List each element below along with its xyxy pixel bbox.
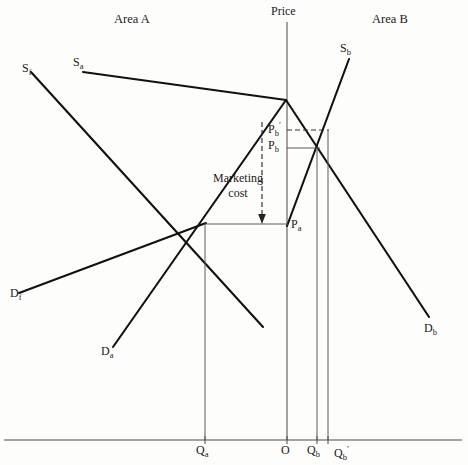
- supply-b-label-sub: b: [347, 47, 351, 57]
- demand-b-label-base: D: [424, 321, 433, 335]
- supply-a-curve: [83, 72, 286, 100]
- area-b-header: Area B: [372, 12, 408, 26]
- diagram-canvas: Area A Area B Price Sf Sa Sb Df Da Db Pb…: [0, 0, 468, 465]
- demand-b-label-sub: b: [433, 327, 437, 337]
- demand-farm-label: Df: [10, 287, 22, 303]
- price-axis-label: Price: [271, 5, 296, 19]
- supply-a-label-base: S: [73, 55, 80, 69]
- q-a-base: Q: [196, 443, 205, 457]
- price-a-label: Pa: [291, 218, 301, 234]
- demand-a-label-base: D: [101, 344, 110, 358]
- diagram-lines: [0, 0, 468, 465]
- q-a-sub: a: [205, 449, 209, 459]
- q-b-prime-label: Qb′: [334, 444, 349, 463]
- q-b-prime-mark: ′: [347, 444, 349, 454]
- demand-farm-curve: [19, 223, 206, 293]
- price-b-sub: b: [275, 144, 279, 154]
- marketing-cost-arrowhead: [258, 214, 266, 224]
- price-a-base: P: [291, 217, 298, 231]
- origin-label: O: [281, 444, 290, 458]
- q-b-prime-base: Q: [334, 446, 343, 460]
- price-b-base: P: [268, 138, 275, 152]
- price-a-sub: a: [298, 223, 302, 233]
- supply-b-label-base: S: [340, 41, 347, 55]
- supply-farm-label-sub: f: [29, 67, 32, 77]
- demand-b-curve: [286, 100, 429, 317]
- supply-farm-label: Sf: [22, 62, 32, 78]
- demand-a-label-sub: a: [110, 350, 114, 360]
- marketing-cost-line-1: Marketing: [213, 171, 263, 185]
- supply-b-curve: [287, 59, 349, 226]
- supply-farm-label-base: S: [22, 61, 29, 75]
- area-a-header: Area A: [114, 12, 150, 26]
- price-b-label: Pb: [268, 139, 279, 155]
- price-b-prime-base: P: [268, 122, 275, 136]
- price-b-prime-mark: ′: [279, 120, 281, 130]
- demand-a-label: Da: [101, 345, 113, 361]
- supply-b-label: Sb: [340, 42, 351, 58]
- marketing-cost-label: Marketing cost: [202, 171, 274, 201]
- demand-b-label: Db: [424, 322, 437, 338]
- q-b-base: Q: [307, 443, 316, 457]
- supply-a-label: Sa: [73, 56, 83, 72]
- demand-farm-label-base: D: [10, 286, 19, 300]
- q-b-label: Qb: [307, 444, 320, 460]
- price-b-prime-label: Pb′: [268, 120, 281, 139]
- demand-farm-label-sub: f: [19, 292, 22, 302]
- q-a-label: Qa: [196, 444, 208, 460]
- marketing-cost-line-2: cost: [228, 186, 247, 200]
- supply-a-label-sub: a: [80, 61, 84, 71]
- q-b-sub: b: [316, 449, 320, 459]
